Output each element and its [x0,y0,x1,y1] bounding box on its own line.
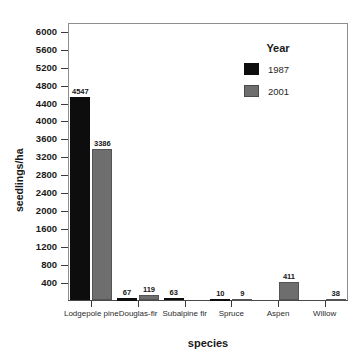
x-tick-mark [138,301,139,307]
x-tick-mark [185,301,186,307]
y-tick-mark [61,229,68,230]
y-tick-label: 4800 [0,80,57,91]
y-tick-label: 1600 [0,223,57,234]
bar-1987 [210,299,230,301]
bar-value-label: 411 [283,272,295,281]
bar-chart-figure: seedlings/ha 400800120016002000240028003… [0,0,364,361]
y-tick-mark [61,32,68,33]
y-tick-label: 3200 [0,151,57,162]
bar-1987 [164,298,184,301]
legend-swatch [244,85,259,97]
bar-value-label: 4547 [72,87,89,96]
y-tick-label: 2400 [0,187,57,198]
y-tick-mark [61,86,68,87]
x-tick-label: Spruce [219,309,244,318]
bar-2001 [232,299,252,301]
bar-value-label: 38 [331,289,339,298]
legend-title: Year [240,42,316,54]
x-tick-label: Douglas-fir [119,309,158,318]
bar-2001 [279,282,299,300]
y-tick-mark [61,175,68,176]
y-tick-mark [61,121,68,122]
y-tick-mark [61,247,68,248]
x-tick-mark [278,301,279,307]
legend-label: 2001 [268,86,289,97]
x-tick-label: Aspen [267,309,290,318]
legend-item: 1987 [236,63,322,75]
y-tick-label: 4400 [0,98,57,109]
y-tick-mark [61,157,68,158]
bar-2001 [326,299,346,301]
x-axis-title: species [68,337,348,349]
legend-entries: 19872001 [236,63,322,97]
bar-1987 [117,298,137,301]
x-tick-label: Lodgepole pine [64,309,119,318]
y-tick-mark [61,68,68,69]
y-tick-label: 1200 [0,241,57,252]
y-tick-mark [61,265,68,266]
y-tick-label: 6000 [0,26,57,37]
y-tick-mark [61,139,68,140]
y-tick-label: 800 [0,259,57,270]
y-tick-mark [61,193,68,194]
y-tick-mark [61,104,68,105]
legend: Year 19872001 [236,42,322,107]
x-tick-mark [325,301,326,307]
bar-value-label: 67 [123,288,131,297]
y-tick-mark [61,50,68,51]
y-tick-label: 400 [0,277,57,288]
y-tick-label: 5600 [0,44,57,55]
x-tick-label: Willow [313,309,336,318]
bar-value-label: 63 [169,288,177,297]
y-tick-mark [61,211,68,212]
bar-value-label: 10 [216,289,224,298]
bar-value-label: 119 [143,285,155,294]
y-tick-label: 5200 [0,62,57,73]
y-tick-label: 2000 [0,205,57,216]
y-tick-label: 3600 [0,133,57,144]
legend-label: 1987 [268,64,289,75]
y-tick-label: 2800 [0,169,57,180]
y-tick-mark [61,283,68,284]
bar-value-label: 3386 [94,139,111,148]
bar-2001 [92,149,112,301]
x-tick-mark [91,301,92,307]
legend-item: 2001 [236,85,322,97]
y-tick-label: 4000 [0,115,57,126]
x-tick-label: Subalpine fir [162,309,206,318]
legend-swatch [244,63,259,75]
x-tick-mark [231,301,232,307]
bar-value-label: 9 [240,289,244,298]
bar-1987 [70,97,90,301]
bar-2001 [139,295,159,300]
